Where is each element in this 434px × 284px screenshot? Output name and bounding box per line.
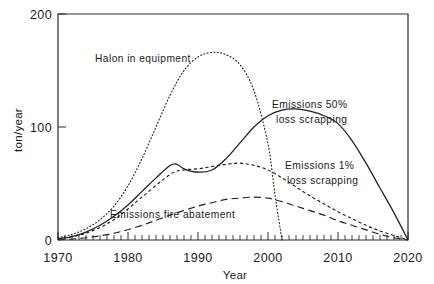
xaxis-minor-ticks (65, 235, 401, 240)
ytick-label-100: 100 (30, 121, 52, 135)
series-label-emissions-50-line2: loss scrapping (276, 114, 347, 125)
series-label-emissions-50-line1: Emissions 50% (272, 99, 348, 110)
chart-svg: 200 100 0 1970 1980 1990 2000 2010 2020 … (0, 0, 434, 284)
xtick-label-2000: 2000 (253, 251, 282, 265)
xtick-label-1980: 1980 (113, 251, 142, 265)
plot-frame (58, 14, 408, 240)
xtick-label-1970: 1970 (43, 251, 72, 265)
y-axis-title: ton/year (12, 108, 24, 152)
xtick-label-1990: 1990 (183, 251, 212, 265)
series-label-emissions-1-line2: loss scrapping (287, 175, 358, 186)
xtick-label-2020: 2020 (393, 251, 422, 265)
ytick-label-0: 0 (45, 234, 52, 248)
ytick-label-200: 200 (30, 8, 52, 22)
series-label-emissions-fire-abatement: Emissions fire abatement (110, 209, 235, 220)
chart-figure: 200 100 0 1970 1980 1990 2000 2010 2020 … (0, 0, 434, 284)
xtick-label-2010: 2010 (323, 251, 352, 265)
series-label-halon-in-equipment: Halon in equipment (95, 53, 191, 64)
x-axis-title: Year (223, 269, 247, 281)
series-label-emissions-1-line1: Emissions 1% (285, 160, 354, 171)
